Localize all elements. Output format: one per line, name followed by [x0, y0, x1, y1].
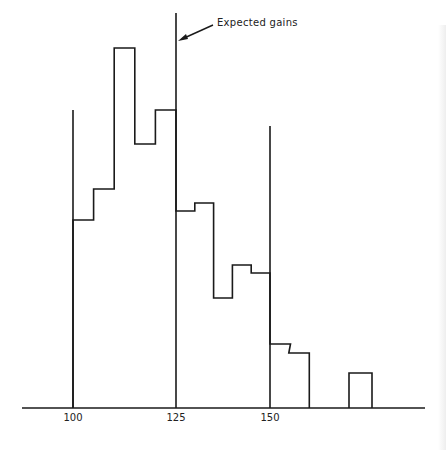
x-tick-label-100: 100 — [63, 412, 82, 423]
histogram-outline — [73, 48, 372, 408]
histogram-chart — [0, 0, 446, 450]
x-tick-label-125: 125 — [166, 412, 185, 423]
page-edge-shadow — [438, 25, 446, 450]
reference-lines — [73, 13, 270, 408]
histogram-bars — [73, 48, 372, 408]
x-tick-label-150: 150 — [260, 412, 279, 423]
expected-gains-annotation: Expected gains — [217, 17, 298, 28]
annotation-arrow-icon — [178, 25, 213, 41]
